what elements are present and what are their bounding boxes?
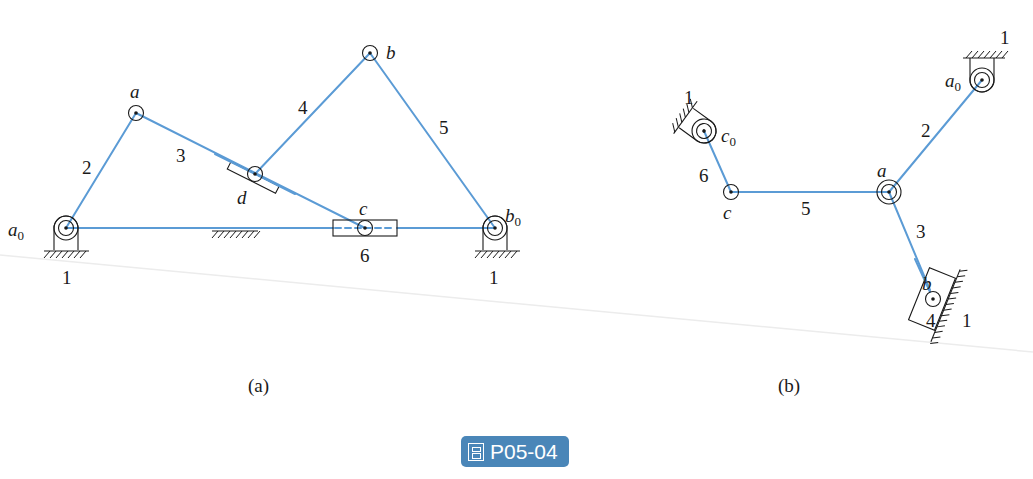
label-link-2: 2: [921, 120, 931, 141]
link-5: [370, 53, 495, 228]
mechanism-diagram: a0 a b b0 c d 2 3 4 5 6 1 1 (a): [0, 0, 1033, 479]
link-2: [889, 80, 982, 192]
label-b: b: [922, 273, 932, 294]
label-a0: a0: [8, 219, 24, 243]
label-ground-1-left: 1: [62, 267, 72, 288]
label-c0: c0: [721, 125, 736, 149]
label-link-5: 5: [439, 117, 449, 138]
label-a0: a0: [945, 70, 961, 94]
label-ground-1-top: 1: [1000, 27, 1010, 48]
label-b0: b0: [505, 205, 521, 229]
figure-number-badge: P05-04: [461, 436, 569, 467]
label-a: a: [130, 81, 140, 102]
panel-b: a0 a b c c0 2 3 4 5 6 1 1 1 (b): [668, 27, 1010, 397]
ground-pivot-c0: [668, 97, 725, 154]
label-b: b: [386, 42, 396, 63]
label-link-3: 3: [176, 145, 186, 166]
label-link-4: 4: [926, 310, 936, 331]
label-link-4: 4: [298, 97, 308, 118]
caption-a: (a): [248, 375, 269, 397]
ground-pivot-a0: [44, 216, 89, 258]
scan-artifact-line: [0, 255, 1033, 352]
link-4: [255, 53, 370, 174]
label-link-6: 6: [360, 245, 370, 266]
caption-b: (b): [778, 375, 800, 397]
slider-block-4: [903, 257, 967, 347]
figure-icon: [468, 443, 484, 461]
label-link-2: 2: [82, 157, 92, 178]
label-ground-1-right: 1: [489, 267, 499, 288]
label-ground-1-right: 1: [962, 310, 972, 331]
joint-a: [129, 106, 144, 121]
label-d: d: [237, 187, 247, 208]
joint-b: [363, 46, 378, 61]
label-ground-1-left: 1: [684, 87, 694, 108]
label-link-6: 6: [699, 165, 709, 186]
label-link-5: 5: [801, 198, 811, 219]
label-a: a: [877, 160, 887, 181]
label-c: c: [723, 202, 732, 223]
link-3: [136, 113, 365, 228]
figure-number: P05-04: [490, 436, 558, 467]
link-2: [66, 113, 136, 228]
label-c: c: [359, 198, 368, 219]
label-link-3: 3: [916, 221, 926, 242]
panel-a: a0 a b b0 c d 2 3 4 5 6 1 1 (a): [8, 42, 521, 397]
ground-hatch-mid: [212, 231, 260, 238]
joint-d: [248, 167, 263, 182]
ground-pivot-a0: [963, 51, 1008, 92]
